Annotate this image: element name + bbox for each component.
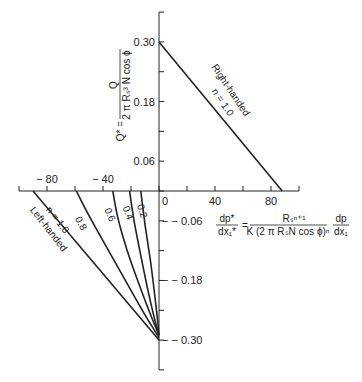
chart-root: − 80− 40040800.300.180.06− − 0.06− − 0.1…	[0, 0, 362, 382]
x-formula-num: Rₛⁿ⁺¹	[282, 213, 306, 224]
y-formula-lhs: Q* =	[115, 121, 126, 141]
y-formula-den: 2 π Rₛ³ N cos ϕ	[121, 50, 132, 120]
y-tick-label: 0.18	[134, 96, 155, 108]
y-tick-label: − − 0.06	[162, 215, 202, 227]
x-tick-label: − 80	[36, 173, 58, 185]
y-tick-label: 0.06	[134, 155, 155, 167]
x-tick-label: 80	[265, 195, 277, 207]
x-tick-label: 40	[209, 195, 221, 207]
x-formula-lhs-den: dx₁*	[218, 226, 236, 237]
chart-svg: − 80− 40040800.300.180.06− − 0.06− − 0.1…	[0, 0, 362, 382]
x-tick-label: 0	[162, 195, 168, 207]
y-tick-label: − − 0.18	[162, 274, 202, 286]
x-formula-rhs-den: dx₁	[334, 226, 349, 237]
curve-label-n: 0.8	[73, 215, 89, 233]
y-formula-num: Q	[108, 81, 119, 89]
y-tick-label: − − 0.30	[162, 334, 202, 346]
x-formula-rhs-num: dp	[335, 213, 347, 224]
y-axis-formula: Q* =Q2 π Rₛ³ N cos ϕ	[108, 49, 132, 141]
y-tick-label: 0.30	[134, 36, 155, 48]
curve-label-n: 0.2	[135, 203, 150, 220]
x-formula-lhs-num: dp*	[219, 213, 234, 224]
x-formula-den: K (2 π RₛN cos ϕ)ⁿ	[247, 226, 330, 237]
x-tick-label: − 40	[92, 173, 114, 185]
